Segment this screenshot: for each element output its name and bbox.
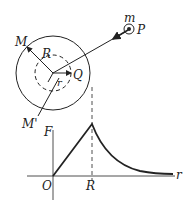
label-Q: Q [73, 68, 83, 82]
label-M: M [14, 35, 28, 49]
force-curve [53, 124, 173, 176]
force-arrow-m [113, 30, 128, 39]
label-F: F [43, 125, 53, 139]
label-r: r [57, 77, 63, 88]
radius-r-arrow [48, 73, 53, 82]
particle-dot [127, 27, 131, 31]
gravity-diagram: M R r Q m P M' F O R r [0, 0, 191, 215]
label-r-axis: r [176, 168, 183, 182]
label-R-axis: R [85, 179, 95, 193]
label-P: P [136, 23, 146, 37]
label-M-prime: M' [21, 117, 38, 131]
label-R-top: R [41, 47, 51, 61]
label-O: O [42, 179, 52, 193]
label-m: m [124, 11, 135, 25]
